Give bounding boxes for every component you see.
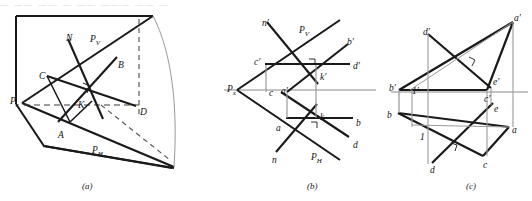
label-Ph: PH [311,152,322,165]
label-d: d [430,165,435,175]
right-angle-mark-k [311,122,317,128]
label-C: C [39,71,45,81]
caption-b: (b) [307,181,318,191]
trace-ph-b [237,90,340,160]
label-a-prime: a′ [514,13,521,23]
label-c-prime: c′ [254,57,260,67]
caption-c: (c) [466,181,476,191]
label-c: c [483,160,487,170]
label-a: a [276,123,281,133]
label-b-prime: b′ [347,37,354,47]
label-e-prime: e′ [493,77,499,87]
line-c-d [281,92,349,137]
label-Pv: PV [299,25,309,38]
label-Pv: PV [90,34,100,47]
line-ab [58,57,117,122]
horizontal-plane-outline [16,104,172,168]
label-1: 1 [420,132,425,142]
label-k: k [320,112,324,122]
label-K: K [78,100,84,110]
label-B: B [118,60,124,70]
label-N: N [66,33,72,43]
label-d: d [353,140,358,150]
label-b: b [387,110,392,120]
line-d-prime-e-prime [428,34,491,88]
label-D: D [140,107,147,117]
label-b: b [356,118,361,128]
triangle-frontal-a-c [487,22,513,90]
boundary-arc [153,16,175,167]
label-a-prime: a′ [281,86,288,96]
label-Px: Px [10,96,19,109]
label-d-prime: d′ [353,61,360,71]
label-n-prime: n′ [262,18,269,28]
caption-a: (a) [82,181,93,191]
line-n [276,104,317,152]
label-k-prime: k′ [320,72,326,82]
line-a-prime-b-prime [287,44,348,92]
label-c: c [269,88,273,98]
label-Px: Px [227,84,236,97]
label-c-prime: c′ [484,94,490,104]
line-n-prime [267,22,318,84]
label-e: e [494,104,498,114]
label-a: a [512,125,517,135]
right-angle-mark-frontal [469,57,475,66]
label-n: n [272,155,277,165]
label-Ph: PH [92,145,103,158]
label-A: A [58,130,64,140]
label-d-prime: d′ [423,27,430,37]
label-1-prime: 1′ [412,86,419,96]
label-b-prime: b′ [389,83,396,93]
horizontal-plane-bottom-edge [44,146,174,168]
